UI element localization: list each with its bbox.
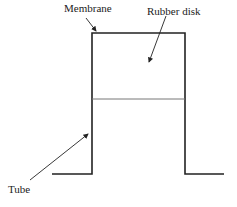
diagram-canvas [0, 0, 237, 207]
tube-label: Tube [8, 183, 30, 195]
tube-arrow [30, 134, 88, 180]
membrane-label: Membrane [64, 2, 112, 14]
tube-outline [52, 33, 224, 174]
rubber-disk-arrow [149, 16, 166, 62]
rubber-disk-label: Rubber disk [147, 5, 200, 17]
membrane-arrow [86, 18, 96, 31]
